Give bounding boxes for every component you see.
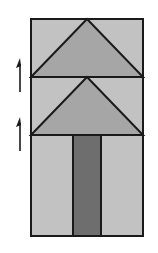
stem-row xyxy=(31,135,143,236)
arrow-quilt-diagram xyxy=(0,0,158,253)
top-triangle-row xyxy=(31,19,143,77)
stem-bar xyxy=(73,135,101,236)
middle-triangle-row xyxy=(31,77,143,135)
